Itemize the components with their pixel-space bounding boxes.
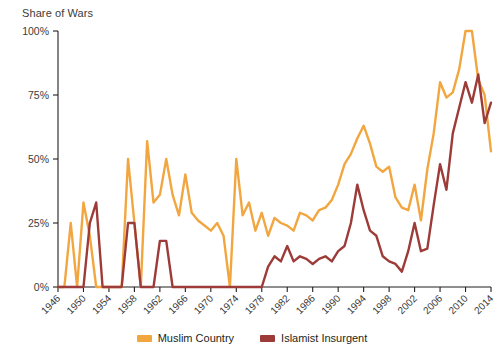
legend-item-muslim-country: Muslim Country [137,332,234,344]
legend-swatch-muslim-country [137,335,152,342]
x-tick-label: 1978 [243,292,267,316]
x-tick-label: 1998 [370,292,394,316]
x-tick-label: 1970 [192,292,216,316]
x-tick-label: 1954 [90,292,114,316]
y-tick-label: 50% [28,153,49,165]
y-tick-label: 0% [34,281,49,293]
x-tick-label: 1974 [217,292,241,316]
x-tick-label: 2010 [446,292,470,316]
x-tick-label: 1982 [268,292,292,316]
x-tick-label: 1994 [345,292,369,316]
legend-swatch-islamist-insurgent [260,335,275,342]
chart-legend: Muslim Country Islamist Insurgent [0,332,504,344]
line-chart-plot: 0%25%50%75%100%1946195019541958196219661… [0,0,504,359]
x-tick-label: 1950 [64,292,88,316]
x-tick-label: 2014 [472,292,496,316]
legend-label-islamist-insurgent: Islamist Insurgent [281,332,367,344]
x-tick-label: 2002 [395,292,419,316]
x-tick-label: 1962 [141,292,165,316]
legend-label-muslim-country: Muslim Country [158,332,234,344]
x-tick-label: 2006 [421,292,445,316]
x-tick-label: 1986 [294,292,318,316]
y-tick-label: 100% [22,25,49,37]
x-tick-label: 1946 [39,292,63,316]
y-tick-label: 25% [28,217,49,229]
x-tick-label: 1958 [115,292,139,316]
y-tick-label: 75% [28,89,49,101]
x-tick-label: 1990 [319,292,343,316]
legend-item-islamist-insurgent: Islamist Insurgent [260,332,367,344]
chart-container: Share of Wars 0%25%50%75%100%19461950195… [0,0,504,359]
x-tick-label: 1966 [166,292,190,316]
